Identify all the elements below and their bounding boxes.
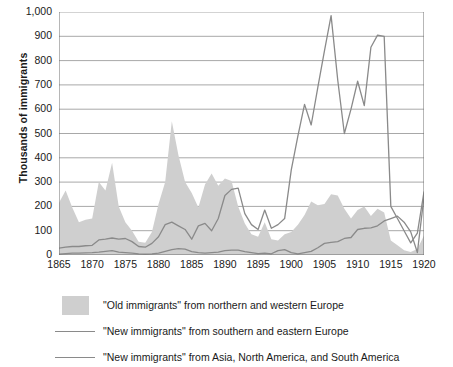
y-tick-label: 100: [6, 224, 52, 236]
x-tick-label: 1880: [147, 258, 170, 270]
legend-line-swatch-icon: [55, 331, 95, 332]
legend-item-label: "New immigrants" from southern and easte…: [103, 325, 349, 337]
x-tick-label: 1875: [114, 258, 137, 270]
x-tick-label: 1885: [180, 258, 203, 270]
y-tick-label: 400: [6, 151, 52, 163]
x-tick-label: 1910: [346, 258, 369, 270]
legend-line-swatch-icon: [55, 357, 95, 358]
chart-legend: "Old immigrants" from northern and weste…: [0, 292, 453, 367]
legend-area-swatch-icon: [62, 296, 89, 315]
y-tick-label: 1,000: [6, 5, 52, 17]
legend-item-label: "New immigrants" from Asia, North Americ…: [103, 351, 399, 363]
x-tick-label: 1895: [246, 258, 269, 270]
plot-svg: [59, 12, 424, 255]
y-tick-label: 600: [6, 102, 52, 114]
y-tick-label: 200: [6, 199, 52, 211]
legend-item[interactable]: "New immigrants" from Asia, North Americ…: [62, 346, 399, 367]
legend-item[interactable]: "Old immigrants" from northern and weste…: [62, 294, 344, 316]
legend-item[interactable]: "New immigrants" from southern and easte…: [62, 320, 349, 342]
x-tick-label: 1920: [412, 258, 435, 270]
x-tick-label: 1915: [379, 258, 402, 270]
immigration-chart: Thousands of immigrants 0100200300400500…: [0, 0, 453, 285]
x-tick-label: 1905: [313, 258, 336, 270]
x-tick-label: 1865: [47, 258, 70, 270]
data-series-layer: [59, 16, 424, 255]
y-tick-label: 300: [6, 175, 52, 187]
x-tick-label: 1900: [280, 258, 303, 270]
legend-item-label: "Old immigrants" from northern and weste…: [103, 299, 344, 311]
chart-page: Thousands of immigrants 0100200300400500…: [0, 0, 453, 367]
y-tick-label: 700: [6, 78, 52, 90]
y-tick-label: 900: [6, 29, 52, 41]
x-tick-label: 1890: [213, 258, 236, 270]
y-tick-label: 500: [6, 127, 52, 139]
y-axis-tick-labels: 01002003004005006007008009001,000: [0, 12, 52, 255]
y-tick-label: 0: [6, 248, 52, 260]
x-tick-label: 1870: [80, 258, 103, 270]
area-series-0: [59, 121, 424, 255]
plot-area: [59, 12, 424, 255]
x-axis-tick-labels: 1865187018751880188518901895190019051910…: [59, 258, 424, 274]
y-tick-label: 800: [6, 54, 52, 66]
